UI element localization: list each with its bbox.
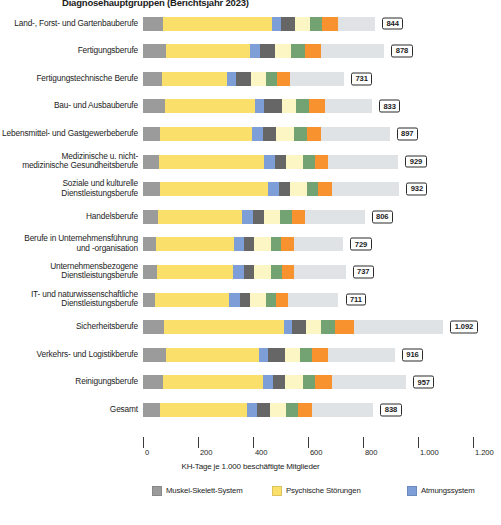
bar-segment <box>300 348 312 362</box>
bar-segment <box>338 17 375 31</box>
chart-title: Diagnosehauptgruppen (Berichtsjahr 2023) <box>62 0 249 8</box>
chart-row: Verkehrs- und Logistikberufe916 <box>0 341 501 368</box>
category-label: Soziale und kulturelle Dienstleistungsbe… <box>0 180 138 199</box>
bar-segment <box>157 265 233 279</box>
bar-segment <box>312 403 373 417</box>
bar-segment <box>307 127 322 141</box>
bar-segment <box>310 17 322 31</box>
category-label: Sicherheitsberufe <box>0 322 138 332</box>
bar-segment <box>325 99 372 113</box>
bar-segment <box>284 320 292 334</box>
category-label: Berufe in Unternehmensführung und -organ… <box>0 235 138 254</box>
bar-segment <box>276 293 288 307</box>
bar-total-label: 731 <box>351 72 372 85</box>
bar-total-label: 878 <box>391 45 412 58</box>
stacked-bar <box>143 99 372 113</box>
axis-tick <box>363 437 364 448</box>
chart-row: Fertigungsberufe878 <box>0 38 501 65</box>
bar-segment <box>279 182 290 196</box>
bar-segment <box>257 403 270 417</box>
stacked-bar <box>143 265 346 279</box>
category-label: Lebensmittel- und Gastgewerbeberufe <box>0 129 138 139</box>
bar-segment <box>250 293 266 307</box>
chart-container: Diagnosehauptgruppen (Berichtsjahr 2023)… <box>0 0 501 525</box>
bar-segment <box>229 293 239 307</box>
bar-segment <box>332 375 406 389</box>
bar-segment <box>143 320 164 334</box>
axis-tick-label: 800 <box>363 448 377 457</box>
axis-tick-label: 400 <box>253 448 267 457</box>
bar-segment <box>264 210 281 224</box>
legend-label: Muskel-Skelett-System <box>166 486 243 495</box>
bar-segment <box>255 99 264 113</box>
bar-segment <box>306 320 321 334</box>
legend-item[interactable]: Psychische Störungen <box>272 486 407 496</box>
bar-segment <box>282 265 295 279</box>
stacked-bar <box>143 375 406 389</box>
bar-segment <box>332 182 399 196</box>
bar-total-label: 1.092 <box>450 321 477 334</box>
bar-segment <box>263 127 276 141</box>
chart-row: Medizinische u. nicht- medizinische Gesu… <box>0 148 501 175</box>
bar-segment <box>234 237 244 251</box>
bar-segment <box>268 348 285 362</box>
bar-segment <box>253 210 264 224</box>
bar-segment <box>335 320 355 334</box>
bar-segment <box>268 182 279 196</box>
bar-segment <box>155 293 229 307</box>
legend-swatch-icon <box>407 486 417 496</box>
bar-segment <box>165 99 255 113</box>
bar-total-label: 957 <box>413 376 434 389</box>
legend-swatch-icon <box>272 486 282 496</box>
chart-legend: Muskel-Skelett-SystemPsychische Störunge… <box>152 484 497 524</box>
bar-segment <box>240 293 250 307</box>
category-label: Fertigungstechnische Berufe <box>0 74 138 84</box>
bar-segment <box>143 182 160 196</box>
bar-segment <box>281 237 293 251</box>
category-label: Medizinische u. nicht- medizinische Gesu… <box>0 152 138 171</box>
bar-segment <box>277 72 290 86</box>
axis-tick <box>418 437 419 448</box>
chart-row: Gesamt838 <box>0 396 501 423</box>
bar-total-label: 932 <box>406 183 427 196</box>
bar-segment <box>160 127 253 141</box>
bar-segment <box>305 210 364 224</box>
bar-segment <box>296 99 309 113</box>
bar-segment <box>264 155 274 169</box>
stacked-bar <box>143 127 390 141</box>
bar-segment <box>242 210 252 224</box>
bar-segment <box>143 99 165 113</box>
axis-tick-label: 1.200 <box>473 448 494 457</box>
category-label: Verkehrs- und Logistikberufe <box>0 350 138 360</box>
category-label: Gesamt <box>0 405 138 415</box>
chart-row: Sicherheitsberufe1.092 <box>0 314 501 341</box>
bar-segment <box>160 182 268 196</box>
bar-segment <box>328 348 395 362</box>
bar-total-label: 806 <box>372 210 393 223</box>
bar-total-label: 897 <box>397 127 418 140</box>
bar-segment <box>236 72 252 86</box>
bar-segment <box>295 17 310 31</box>
legend-item[interactable]: Muskel-Skelett-System <box>152 486 272 496</box>
bar-segment <box>143 127 160 141</box>
bar-segment <box>321 44 384 58</box>
bar-segment <box>280 210 291 224</box>
bar-total-label: 844 <box>382 17 403 30</box>
stacked-bar <box>143 72 344 86</box>
chart-row: Unternehmensbezogene Dienstleistungsberu… <box>0 258 501 285</box>
bar-segment <box>318 182 332 196</box>
bar-segment <box>286 155 303 169</box>
category-label: Handelsberufe <box>0 212 138 222</box>
bar-segment <box>247 403 257 417</box>
bar-segment <box>322 17 337 31</box>
bar-segment <box>227 72 236 86</box>
bar-segment <box>270 403 286 417</box>
chart-row: Lebensmittel- und Gastgewerbeberufe897 <box>0 120 501 147</box>
bar-segment <box>272 17 281 31</box>
bar-segment <box>273 375 285 389</box>
bar-segment <box>259 348 269 362</box>
bar-segment <box>275 155 286 169</box>
bar-total-label: 711 <box>346 293 367 306</box>
bar-segment <box>315 375 332 389</box>
legend-item[interactable]: Atmungssystem <box>407 486 501 496</box>
